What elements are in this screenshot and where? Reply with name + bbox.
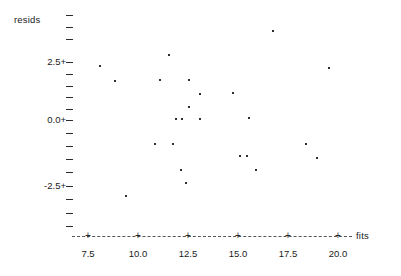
data-point xyxy=(188,106,190,108)
y-tick-mark xyxy=(66,213,73,214)
x-tick-label: 20.0 xyxy=(329,249,348,259)
x-tick-mark: + xyxy=(335,231,341,241)
y-tick-label: -2.5+ xyxy=(44,180,66,191)
data-point xyxy=(246,155,248,157)
y-tick-mark xyxy=(66,15,73,16)
y-tick-mark xyxy=(66,62,73,63)
y-tick-mark xyxy=(66,146,73,147)
x-tick-label: 15.0 xyxy=(229,249,248,259)
data-point xyxy=(199,93,201,95)
data-point xyxy=(188,79,190,81)
data-point xyxy=(239,155,241,157)
data-point xyxy=(180,169,182,171)
y-tick-mark xyxy=(66,74,73,75)
data-points-layer xyxy=(0,0,401,276)
data-point xyxy=(125,195,127,197)
x-tick-mark: + xyxy=(285,231,291,241)
data-point xyxy=(316,157,318,159)
y-tick-mark xyxy=(66,186,73,187)
y-tick-mark xyxy=(66,109,73,110)
data-point xyxy=(114,80,116,82)
x-tick-mark: + xyxy=(235,231,241,241)
data-point xyxy=(232,92,234,94)
x-tick-label: 17.5 xyxy=(279,249,298,259)
y-tick-mark xyxy=(66,27,73,28)
y-axis-ticks: 2.5+0.0+-2.5+ xyxy=(0,0,401,276)
y-tick-mark xyxy=(66,172,73,173)
data-point xyxy=(255,169,257,171)
y-tick-mark xyxy=(66,159,73,160)
data-point xyxy=(272,30,274,32)
y-tick-mark xyxy=(66,120,73,121)
x-axis: +7.5+10.0+12.5+15.0+17.5+20.0fits xyxy=(0,0,401,276)
y-tick-mark xyxy=(66,226,73,227)
y-tick-mark xyxy=(66,133,73,134)
data-point xyxy=(168,54,170,56)
data-point xyxy=(175,118,177,120)
y-tick-label: 0.0+ xyxy=(47,114,66,125)
data-point xyxy=(248,117,250,119)
y-axis-title: resids xyxy=(14,14,41,25)
x-axis-line xyxy=(72,236,352,237)
x-tick-label: 10.0 xyxy=(129,249,148,259)
data-point xyxy=(154,143,156,145)
data-point xyxy=(328,67,330,69)
y-tick-mark xyxy=(66,97,73,98)
data-point xyxy=(181,118,183,120)
data-point xyxy=(172,143,174,145)
y-tick-mark xyxy=(66,86,73,87)
x-tick-mark: + xyxy=(185,231,191,241)
x-tick-label: 7.5 xyxy=(81,249,94,259)
data-point xyxy=(305,143,307,145)
data-point xyxy=(99,65,101,67)
y-tick-label: 2.5+ xyxy=(47,56,66,67)
x-tick-mark: + xyxy=(135,231,141,241)
scatter-plot: resids 2.5+0.0+-2.5+ +7.5+10.0+12.5+15.0… xyxy=(0,0,401,276)
y-tick-mark xyxy=(66,39,73,40)
x-tick-mark: + xyxy=(85,231,91,241)
data-point xyxy=(185,182,187,184)
data-point xyxy=(199,118,201,120)
x-axis-title: fits xyxy=(356,230,369,241)
y-tick-mark xyxy=(66,199,73,200)
data-point xyxy=(159,79,161,81)
x-tick-label: 12.5 xyxy=(179,249,198,259)
